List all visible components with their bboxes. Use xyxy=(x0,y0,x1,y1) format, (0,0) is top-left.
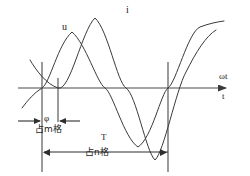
axis-label-t: t xyxy=(222,92,225,101)
diagram-canvas xyxy=(0,0,250,176)
curve-label-i: i xyxy=(126,5,129,15)
axis-label-omega-t: ωt xyxy=(219,72,227,81)
phase-difference-caption: 占m格 xyxy=(35,125,62,134)
period-symbol: T xyxy=(101,133,107,142)
period-dimension-arrow-right xyxy=(160,149,167,156)
waveform-diagram: u i ωt t φ 占m格 T 占n格 xyxy=(0,0,250,176)
phase-difference-symbol: φ xyxy=(44,114,49,123)
curve-label-u: u xyxy=(62,22,67,32)
period-dimension-arrow-left xyxy=(43,149,50,156)
period-caption: 占n格 xyxy=(85,148,109,157)
